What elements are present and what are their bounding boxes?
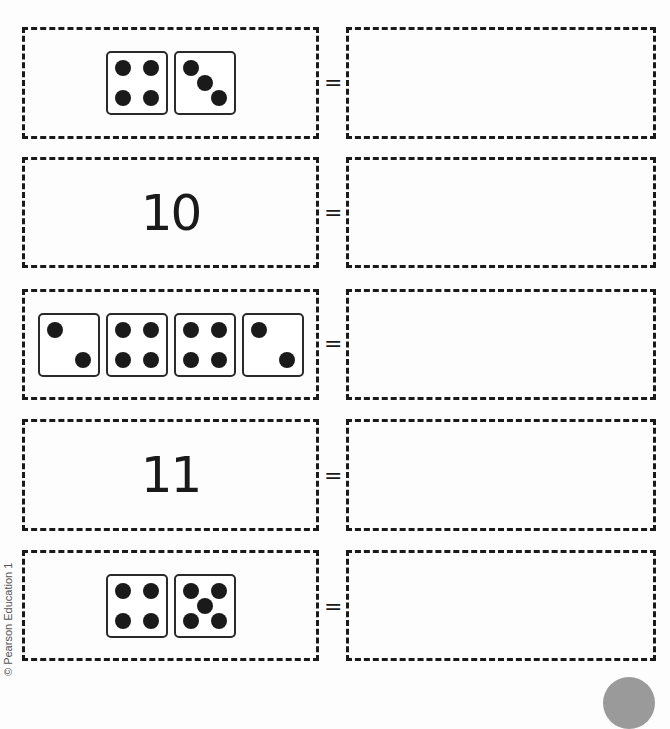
answer-box-2[interactable] — [346, 157, 656, 268]
pip — [143, 613, 159, 629]
pip — [211, 352, 227, 368]
pip — [183, 613, 199, 629]
equals-sign: = — [324, 596, 342, 618]
die-five — [174, 574, 236, 638]
pip — [143, 90, 159, 106]
die-four — [106, 574, 168, 638]
answer-box-5[interactable] — [346, 550, 656, 661]
pip — [197, 75, 213, 91]
pip — [211, 583, 227, 599]
dice-group-3 — [38, 313, 304, 377]
equals-sign: = — [324, 465, 342, 487]
problem-box-4: 11 — [22, 419, 319, 531]
number-eleven: 11 — [141, 446, 201, 504]
die-four — [106, 313, 168, 377]
pip — [75, 352, 91, 368]
pip — [183, 322, 199, 338]
copyright-text: © Pearson Education 1 — [2, 556, 14, 676]
pip — [183, 352, 199, 368]
equals-sign: = — [324, 333, 342, 355]
pip — [115, 322, 131, 338]
dice-group-5 — [106, 574, 236, 638]
die-four — [106, 51, 168, 115]
problem-box-1 — [22, 27, 319, 139]
die-two — [38, 313, 100, 377]
equals-sign: = — [324, 72, 342, 94]
pip — [279, 352, 295, 368]
problem-box-3 — [22, 289, 319, 400]
pip — [251, 322, 267, 338]
pip — [143, 352, 159, 368]
pip — [183, 583, 199, 599]
pip — [211, 322, 227, 338]
pip — [47, 322, 63, 338]
die-two — [242, 313, 304, 377]
pip — [183, 60, 199, 76]
equals-sign: = — [324, 202, 342, 224]
answer-box-4[interactable] — [346, 419, 656, 531]
pip — [211, 90, 227, 106]
pip — [143, 583, 159, 599]
dice-group-1 — [106, 51, 236, 115]
pip — [115, 583, 131, 599]
page-number-circle — [603, 677, 655, 729]
pip — [115, 90, 131, 106]
pip — [115, 352, 131, 368]
die-three — [174, 51, 236, 115]
number-ten: 10 — [141, 184, 201, 242]
pip — [143, 322, 159, 338]
pip — [115, 613, 131, 629]
pip — [197, 598, 213, 614]
pip — [115, 60, 131, 76]
answer-box-3[interactable] — [346, 289, 656, 400]
answer-box-1[interactable] — [346, 27, 656, 139]
die-four — [174, 313, 236, 377]
problem-box-5 — [22, 550, 319, 661]
pip — [211, 613, 227, 629]
pip — [143, 60, 159, 76]
problem-box-2: 10 — [22, 157, 319, 268]
